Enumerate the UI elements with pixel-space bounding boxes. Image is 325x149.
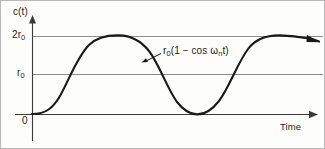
step-response-figure: c(t) 2r0 r0 0 Time r0(1 − cos ωnt) — [0, 0, 325, 149]
x-axis-arrow-icon — [309, 111, 318, 118]
curve-equation-annotation: r0(1 − cos ωnt) — [163, 46, 229, 57]
y-tick-r0: r0 — [17, 68, 25, 79]
annotation-expression: (1 − cos ω — [171, 45, 218, 56]
y-axis-label: c(t) — [13, 7, 28, 17]
annotation-suffix: t) — [222, 45, 228, 56]
annotation-arrow-icon — [142, 58, 149, 62]
y-axis-arrow-icon — [29, 15, 36, 24]
x-axis-label: Time — [280, 122, 301, 132]
y-tick-2r0: 2r0 — [12, 30, 25, 41]
y-tick-2r0-subscript: 0 — [21, 33, 25, 42]
figure-canvas — [1, 1, 325, 149]
origin-label: 0 — [22, 116, 28, 126]
y-tick-2r0-main: 2r — [12, 29, 21, 40]
y-tick-r0-subscript: 0 — [20, 71, 24, 80]
